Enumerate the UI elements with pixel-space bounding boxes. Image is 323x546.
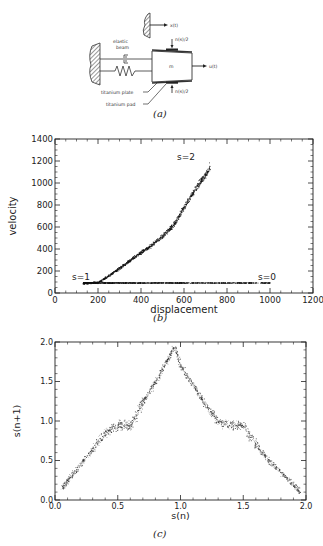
x-axis-label: s(n) <box>171 510 189 521</box>
caption-c: (c) <box>153 528 166 539</box>
y-axis-label: s(n+1) <box>11 405 22 437</box>
x-tick-label: 1.5 <box>237 502 250 511</box>
x-tick-label: 0.5 <box>111 502 124 511</box>
y-tick-label: 0.5 <box>40 456 53 465</box>
y-tick-label: 0.0 <box>40 496 53 505</box>
y-tick-label: 2.0 <box>40 338 53 347</box>
panel-c-chart: 0.00.51.01.52.00.00.51.01.52.0s(n)s(n+1) <box>0 0 323 546</box>
y-tick-label: 1.0 <box>40 417 53 426</box>
scatter-points <box>61 346 301 494</box>
y-tick-label: 1.5 <box>40 377 53 386</box>
x-tick-label: 2.0 <box>300 502 313 511</box>
